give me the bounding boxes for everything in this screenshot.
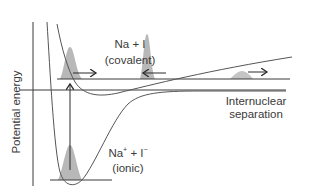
iodine-charge: − xyxy=(144,146,148,153)
sodium-symbol: Na xyxy=(108,147,123,159)
covalent-label: Na + I (covalent) xyxy=(100,38,160,67)
covalent-type: (covalent) xyxy=(100,54,160,67)
iodine-symbol: + I xyxy=(127,147,143,159)
ionic-species: Na+ + I− xyxy=(100,147,156,160)
x-axis-label-line1: Internuclear xyxy=(208,95,304,108)
x-axis-label-line2: separation xyxy=(208,108,304,121)
ionic-label: Na+ + I− (ionic) xyxy=(100,147,156,175)
covalent-potential-curve xyxy=(57,24,292,95)
y-axis-label: Potential energy xyxy=(10,62,22,162)
x-axis-label: Internuclear separation xyxy=(208,95,304,121)
covalent-species: Na + I xyxy=(100,38,160,51)
ionic-type: (ionic) xyxy=(100,162,156,175)
